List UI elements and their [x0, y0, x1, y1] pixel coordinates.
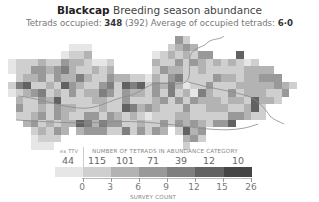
map-subtitle: Tetrads occupied: 348 (392) Average of o… [0, 18, 319, 28]
tetrads-label: Tetrads occupied: [26, 18, 102, 28]
tick-label-15: 15 [212, 182, 232, 192]
legend-swatch-0 [55, 167, 83, 177]
tick-label-0: 0 [72, 182, 92, 192]
legend-swatch-3 [139, 167, 167, 177]
extv-count: 44 [54, 155, 82, 166]
average-value: 6·0 [278, 18, 293, 28]
map-title: Blackcap Breeding season abundance [0, 4, 319, 16]
tick-label-6: 6 [128, 182, 148, 192]
axis-title: SURVEY COUNT [130, 194, 176, 200]
legend-swatch-1 [83, 167, 111, 177]
tick-label-26: 26 [241, 182, 261, 192]
tick-label-9: 9 [156, 182, 176, 192]
category-count-3: 71 [139, 155, 167, 166]
legend-swatch-4 [167, 167, 195, 177]
category-count-4: 39 [167, 155, 195, 166]
extv-label: ex TTV [60, 148, 78, 154]
river-lines [8, 36, 312, 148]
species-name: Blackcap [57, 4, 110, 16]
tick-label-12: 12 [184, 182, 204, 192]
tetrads-value: 348 [104, 18, 122, 28]
season-label: Breeding season abundance [113, 4, 262, 16]
tick-label-3: 3 [100, 182, 120, 192]
average-label: Average of occupied tetrads: [151, 18, 275, 28]
category-count-5: 12 [195, 155, 223, 166]
legend-swatch-2 [111, 167, 139, 177]
category-count-2: 101 [111, 155, 139, 166]
category-count-6: 10 [224, 155, 252, 166]
legend-heading: NUMBER OF TETRADS IN ABUNDANCE CATEGORY [92, 148, 238, 154]
abundance-map [8, 36, 312, 148]
category-count-1: 115 [83, 155, 111, 166]
legend-swatch-6 [224, 167, 252, 177]
legend-swatch-5 [195, 167, 224, 177]
tetrads-total: (392) [125, 18, 148, 28]
